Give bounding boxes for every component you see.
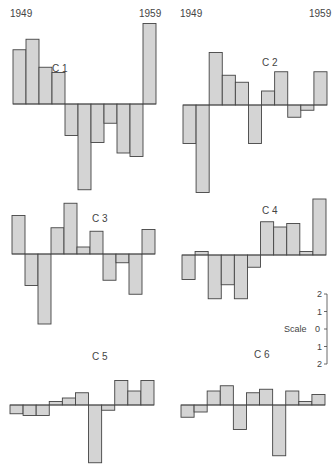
panel-c1: C 1 — [13, 24, 156, 190]
bar-1953 — [234, 255, 247, 299]
bar-1958 — [130, 104, 143, 157]
bar-1958 — [128, 391, 141, 405]
bar-1955 — [260, 389, 273, 405]
scale-bar: 2 1 0 1 2 Scale — [284, 289, 327, 369]
bar-1959 — [314, 72, 327, 105]
bar-1956 — [275, 72, 288, 105]
panel-c4: C 4 — [182, 199, 326, 299]
bar-1959 — [141, 381, 154, 406]
panel-label-c5: C 5 — [92, 351, 108, 362]
panel-c6: C 6 — [181, 349, 325, 456]
bar-1949 — [183, 105, 196, 144]
bar-1956 — [273, 405, 286, 456]
panel-label-c6: C 6 — [254, 349, 270, 360]
bar-1955 — [261, 222, 274, 255]
bar-1953 — [62, 398, 75, 405]
bar-1958 — [301, 105, 314, 110]
bar-1952 — [52, 73, 65, 105]
bar-1951 — [208, 255, 221, 299]
scale-tick-2-top: 2 — [317, 289, 322, 299]
panel-label-c3: C 3 — [92, 213, 108, 224]
bar-1949 — [13, 50, 26, 104]
bar-1954 — [75, 393, 88, 405]
bar-1954 — [77, 247, 90, 254]
bar-1952 — [221, 255, 234, 285]
bar-1951 — [36, 405, 49, 416]
bar-1956 — [274, 227, 287, 255]
bar-1956 — [102, 405, 115, 410]
panel-c3: C 3 — [12, 203, 155, 324]
bar-1953 — [235, 82, 248, 105]
bar-1959 — [143, 24, 156, 105]
bar-1957 — [287, 224, 300, 256]
bar-1949 — [182, 255, 195, 280]
panel-c2: C 2 — [183, 53, 327, 193]
bar-1950 — [23, 405, 36, 416]
bar-1951 — [39, 67, 52, 104]
bar-1955 — [262, 91, 275, 105]
scale-tick-0: 0 — [315, 324, 320, 334]
bar-1950 — [26, 39, 39, 104]
scale-tick-1-top: 1 — [317, 307, 322, 317]
bar-1953 — [233, 405, 246, 430]
scale-tick-2-bottom: 2 — [317, 359, 322, 369]
bar-1952 — [51, 228, 64, 254]
bar-1951 — [207, 391, 220, 405]
bar-1958 — [129, 254, 142, 294]
bar-1953 — [65, 104, 78, 136]
scale-tick-1-bottom: 1 — [317, 342, 322, 352]
panel-c5: C 5 — [10, 351, 154, 463]
scale-label: Scale — [284, 324, 307, 334]
bar-1950 — [25, 254, 38, 286]
bar-1959 — [312, 395, 325, 406]
bar-1954 — [246, 393, 259, 405]
bar-1959 — [313, 199, 326, 255]
bar-1949 — [181, 405, 194, 417]
bar-1956 — [103, 254, 116, 280]
bar-1957 — [116, 254, 129, 263]
bar-1951 — [38, 254, 51, 324]
bar-1957 — [286, 391, 299, 405]
step-chart-figure: C 1C 2C 3C 4C 5C 6 2 1 0 1 2 Scale — [0, 0, 336, 469]
bar-1954 — [247, 255, 260, 267]
bar-1950 — [196, 105, 209, 193]
bar-1955 — [89, 405, 102, 463]
bar-1953 — [64, 203, 77, 254]
bar-1958 — [300, 252, 313, 256]
bar-1952 — [222, 75, 235, 105]
bar-1957 — [115, 381, 128, 406]
bar-1956 — [104, 104, 117, 123]
panel-label-c2: C 2 — [262, 57, 278, 68]
bar-1958 — [299, 402, 312, 406]
bar-1950 — [195, 252, 208, 256]
bar-1955 — [90, 231, 103, 254]
bar-1955 — [91, 104, 104, 143]
bar-1950 — [194, 405, 207, 412]
bar-1951 — [209, 53, 222, 106]
bar-1954 — [248, 105, 261, 144]
bar-1949 — [10, 405, 23, 414]
bar-1957 — [117, 104, 130, 153]
bar-1957 — [288, 105, 301, 117]
bar-1949 — [12, 216, 25, 255]
bar-1952 — [49, 402, 62, 406]
bar-1952 — [220, 386, 233, 405]
bar-1954 — [78, 104, 91, 190]
panel-label-c4: C 4 — [262, 205, 278, 216]
bar-1959 — [142, 230, 155, 255]
panel-label-c1: C 1 — [52, 63, 68, 74]
